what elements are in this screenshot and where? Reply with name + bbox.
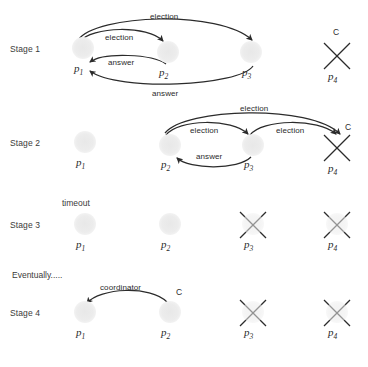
proc-label-stage4-p1: p1 bbox=[76, 326, 85, 341]
node-stage2-p3 bbox=[242, 134, 264, 156]
proc-label-stage2-p3: p3 bbox=[244, 158, 253, 173]
node-stage1-p3 bbox=[240, 41, 262, 63]
proc-label-stage1-p1: p1 bbox=[74, 62, 83, 77]
node-stage3-p3 bbox=[242, 213, 264, 235]
coordinator-crown-stage2: C bbox=[345, 122, 351, 132]
node-stage4-p3 bbox=[242, 301, 264, 323]
coordinator-crown-stage4: C bbox=[176, 287, 182, 297]
stage-label-1: Stage 1 bbox=[10, 44, 40, 54]
node-stage2-p1 bbox=[74, 131, 96, 153]
proc-label-stage4-p2: p2 bbox=[161, 326, 170, 341]
proc-label-stage3-p1: p1 bbox=[76, 238, 85, 253]
proc-label-stage1-p4: p4 bbox=[328, 70, 337, 85]
proc-label-stage2-p4: p4 bbox=[328, 162, 337, 177]
cross-stage2-p4 bbox=[324, 135, 350, 161]
edge-label-stage2-election-p3p4: election bbox=[276, 126, 304, 135]
proc-label-stage3-p2: p2 bbox=[161, 238, 170, 253]
proc-label-stage3-p4: p4 bbox=[328, 238, 337, 253]
proc-label-stage1-p3: p3 bbox=[242, 66, 251, 81]
edge-label-stage1-answer-short: answer bbox=[108, 58, 134, 67]
diagram-vector-layer bbox=[0, 0, 368, 367]
node-stage2-p2 bbox=[159, 134, 181, 156]
node-stage4-p4 bbox=[326, 301, 348, 323]
edge-label-stage2-election-p2p3: election bbox=[190, 126, 218, 135]
proc-label-stage4-p4: p4 bbox=[328, 326, 337, 341]
stage-label-3: Stage 3 bbox=[10, 220, 40, 230]
edge-label-stage1-election-long: election bbox=[150, 12, 178, 21]
annotation-timeout: timeout bbox=[62, 198, 90, 208]
election-stages-diagram: Stage 1 p1 p2 p3 p4 C election election … bbox=[0, 0, 368, 367]
edge-label-stage4-coordinator: coordinator bbox=[100, 283, 141, 292]
cross-stage1-p4 bbox=[324, 43, 350, 69]
proc-label-stage4-p3: p3 bbox=[244, 326, 253, 341]
edge-label-stage2-election-long: election bbox=[240, 104, 268, 113]
edge-label-stage1-election-short: election bbox=[105, 33, 133, 42]
edge-stage4-coordinator-p2-p1 bbox=[87, 290, 167, 303]
proc-label-stage2-p2: p2 bbox=[161, 158, 170, 173]
node-stage4-p2 bbox=[159, 301, 181, 323]
edge-label-stage2-answer: answer bbox=[196, 152, 222, 161]
edge-label-stage1-answer-long: answer bbox=[152, 89, 178, 98]
proc-label-stage2-p1: p1 bbox=[76, 156, 85, 171]
node-stage4-p1 bbox=[74, 301, 96, 323]
node-stage1-p1 bbox=[72, 37, 94, 59]
note-eventually: Eventually..... bbox=[12, 270, 62, 280]
stage-label-4: Stage 4 bbox=[10, 308, 40, 318]
node-stage3-p4 bbox=[326, 213, 348, 235]
coordinator-crown-stage1: C bbox=[333, 27, 339, 37]
proc-label-stage1-p2: p2 bbox=[159, 66, 168, 81]
node-stage3-p2 bbox=[159, 213, 181, 235]
stage-label-2: Stage 2 bbox=[10, 138, 40, 148]
edge-stage1-answer-p3-p1 bbox=[90, 66, 253, 84]
proc-label-stage3-p3: p3 bbox=[244, 238, 253, 253]
node-stage1-p2 bbox=[157, 41, 179, 63]
node-stage3-p1 bbox=[74, 213, 96, 235]
